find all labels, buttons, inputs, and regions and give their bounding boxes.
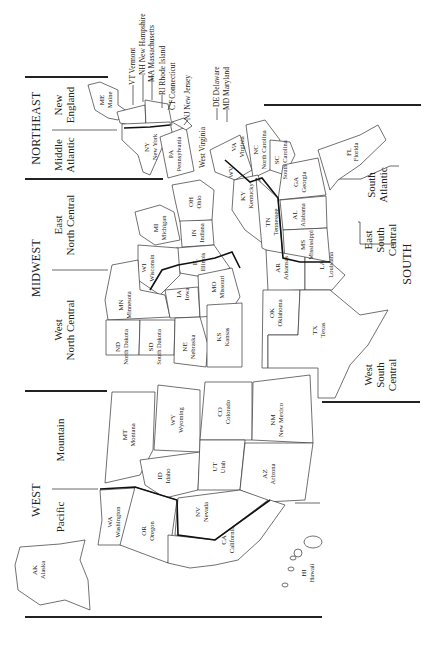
label-pa-abbr: PA <box>167 150 175 158</box>
label-or-abbr: OR <box>140 526 148 536</box>
label-ut-name: Utah <box>219 460 226 473</box>
label-ga-abbr: GA <box>292 177 300 187</box>
label-ok-abbr: OK <box>268 308 276 318</box>
label-ga-name: Georgia <box>300 171 307 192</box>
label-al-name: Alabama <box>299 203 306 227</box>
label-il-abbr: IL <box>191 259 199 266</box>
callout-ct: CT Connecticut <box>168 62 177 110</box>
region-label-northeast: NORTHEAST <box>29 91 43 165</box>
label-ne-name: Nebraska <box>189 335 196 360</box>
label-ia-abbr: IA <box>175 290 183 297</box>
callout-vt: VT Vermont <box>128 47 137 85</box>
label-ms-abbr: MS <box>299 240 307 250</box>
label-va-abbr: VA <box>230 142 238 151</box>
label-ca-abbr: CA <box>220 535 228 545</box>
label-ca-name: California <box>228 527 235 553</box>
label-ar-abbr: AR <box>274 263 282 273</box>
division-label-esc-2: South <box>374 227 386 253</box>
label-tx-name: Texas <box>319 322 326 338</box>
label-ia-name: Iowa <box>183 287 190 300</box>
label-ky-abbr: KY <box>239 191 247 201</box>
state-az <box>240 443 313 502</box>
label-oh-name: Ohio <box>195 196 202 209</box>
label-tn-abbr: TN <box>264 217 272 226</box>
label-wa-abbr: WA <box>106 517 114 528</box>
label-hi-abbr: HI <box>300 569 308 577</box>
label-fl-name: Florida <box>352 142 359 161</box>
label-hi-name: Hawaii <box>308 563 315 582</box>
label-mt-abbr: MT <box>121 429 129 440</box>
label-il-name: Illinois <box>199 252 206 271</box>
region-label-south: SOUTH <box>400 243 414 285</box>
label-wv-abbr: WV <box>227 166 235 178</box>
label-nd-abbr: ND <box>114 342 122 352</box>
division-label-wnc-1: West <box>52 319 64 341</box>
label-ak-abbr: AK <box>31 565 39 575</box>
division-label-new-england-1: New <box>52 95 64 116</box>
label-ms-name: Mississippi <box>307 230 314 260</box>
division-label-middle-atlantic-1: Middle <box>52 139 64 171</box>
callout-ma: MA Massachusetts <box>147 25 156 82</box>
division-label-mountain: Mountain <box>54 418 66 461</box>
label-nv-abbr: NV <box>194 507 202 517</box>
label-mo-abbr: MO <box>210 281 218 292</box>
label-sd-name: South Dakota <box>155 329 162 365</box>
label-wa-name: Washington <box>114 506 121 538</box>
region-label-midwest: MIDWEST <box>29 239 43 297</box>
label-co-abbr: CO <box>216 407 224 417</box>
label-me-name: Maine <box>106 92 113 109</box>
label-tn-name: Tennessee <box>272 209 279 236</box>
label-id-abbr: ID <box>156 472 164 479</box>
region-label-west: WEST <box>29 483 43 517</box>
callout-ri: RI Rhode Island <box>158 46 167 95</box>
label-nm-name: New Mexico <box>277 403 284 437</box>
label-ak-name: Alaska <box>39 561 46 579</box>
state-hi-island-4 <box>288 567 294 571</box>
label-ny-abbr: NY <box>143 142 151 152</box>
label-la-abbr: LA <box>318 260 326 269</box>
label-mi-name: Michigan <box>160 215 167 241</box>
division-label-esc-3: Central <box>386 224 398 256</box>
label-wy-name: Wyoming <box>177 406 184 432</box>
division-label-wnc-2: North Central <box>64 300 76 361</box>
label-nd-name: North Dakota <box>122 329 129 365</box>
division-label-new-england-2: England <box>64 86 76 123</box>
label-al-abbr: AL <box>291 210 299 219</box>
state-hi-island-2 <box>294 549 302 557</box>
label-in-abbr: IN <box>190 229 198 236</box>
us-census-regions-map: NORTHEAST MIDWEST WEST SOUTH New England… <box>0 0 431 652</box>
callout-west-virginia: West Virginia <box>198 126 207 168</box>
label-la-name: Louisiana <box>327 252 334 278</box>
state-hi-island-1 <box>304 536 322 548</box>
label-oh-abbr: OH <box>187 197 195 207</box>
label-az-name: Arizona <box>269 463 276 484</box>
callout-de: DE Delaware <box>212 66 221 107</box>
state-ak <box>15 540 90 610</box>
division-label-sa-2: Atlantic <box>377 167 389 203</box>
division-label-enc-2: North Central <box>64 195 76 256</box>
label-mi-abbr: MI <box>152 223 160 232</box>
label-wi-name: Wisconsin <box>148 254 155 282</box>
division-label-enc-1: East <box>52 216 64 235</box>
division-label-pacific: Pacific <box>54 502 66 533</box>
label-wi-abbr: WI <box>140 263 148 273</box>
label-me-abbr: ME <box>98 95 106 106</box>
label-sd-abbr: SD <box>147 343 155 352</box>
label-co-name: Colorado <box>224 400 231 424</box>
label-ok-name: Oklahoma <box>276 299 283 326</box>
label-nm-abbr: NM <box>269 414 277 426</box>
state-hi-island-5 <box>282 583 288 587</box>
label-mn-abbr: MN <box>117 299 125 310</box>
label-ar-name: Arkansas <box>282 255 289 280</box>
division-label-wsc-1: West <box>362 364 374 386</box>
label-ny-name: New York <box>151 133 158 160</box>
label-ks-name: Kansas <box>223 327 230 346</box>
label-sc-name: South Carolina <box>281 140 288 179</box>
label-va-name: Virginia <box>238 136 245 157</box>
label-or-name: Oregon <box>148 521 155 541</box>
label-nc-name: North Carolina <box>260 130 267 169</box>
label-nv-name: Nevada <box>202 502 209 522</box>
label-ne-abbr: NE <box>181 342 189 351</box>
label-in-name: Indiana <box>198 223 205 243</box>
label-sc-abbr: SC <box>273 155 281 164</box>
